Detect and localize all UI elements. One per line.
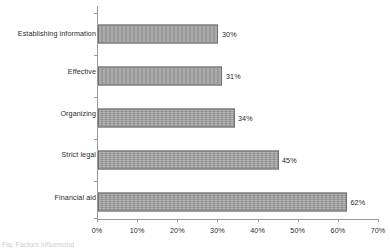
data-label: 31% [226,72,241,81]
x-axis-tick [137,219,138,222]
data-label: 30% [222,30,237,39]
x-axis-tick [97,219,98,222]
x-axis-tick [177,219,178,222]
figure-caption: Fig. Factors influencing [2,241,74,248]
y-axis-tick [94,181,97,182]
x-axis-line [97,219,378,220]
y-axis-tick [94,55,97,56]
bar-financial-aid [98,193,347,212]
x-axis-tick-label: 70% [371,226,386,235]
y-axis-tick [94,13,97,14]
x-axis-tick [298,219,299,222]
category-label: Financial aid [55,194,96,202]
bar-establishing-information [98,25,218,44]
plot-area: 30% 31% 34% 45% 62% 0% 10% 20% 30% 40% 5… [97,6,378,219]
x-axis-tick [338,219,339,222]
x-axis-tick-label: 0% [92,226,103,235]
x-axis-tick-label: 30% [210,226,225,235]
y-axis-tick [94,139,97,140]
x-axis-tick-label: 60% [331,226,346,235]
x-axis-tick [217,219,218,222]
x-axis-tick [378,219,379,222]
x-axis-tick-label: 20% [170,226,185,235]
bar-effective [98,67,222,86]
x-axis-tick-label: 50% [290,226,305,235]
bar-strict-legal [98,151,279,170]
x-axis-tick-label: 40% [250,226,265,235]
y-axis-tick [94,97,97,98]
category-label: Strict legal [61,151,96,159]
category-label: Organizing [60,110,96,118]
data-label: 34% [238,114,253,123]
bar-organizing [98,109,235,128]
data-label: 45% [282,156,297,165]
category-label: Effective [68,68,96,76]
data-label: 62% [351,198,366,207]
category-label: Establishing information [18,30,96,38]
x-axis-tick-label: 10% [130,226,145,235]
x-axis-tick [258,219,259,222]
